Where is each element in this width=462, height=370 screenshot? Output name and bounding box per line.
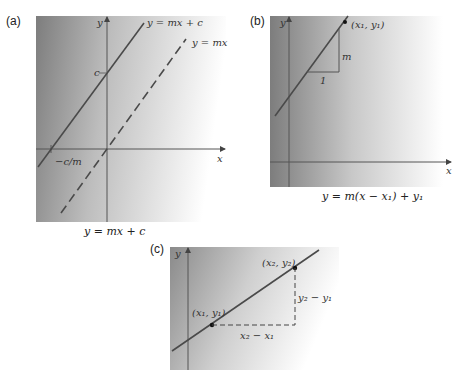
line1-label: y = mx + c [146,17,203,28]
panel-b-caption: y = m(x − x₁) + y₁ [321,190,423,203]
panel-b-y-label: y [279,17,286,28]
point-x1-y1 [343,20,347,24]
run-label-c: x₂ − x₁ [240,330,274,341]
panel-a-x-label: x [217,153,223,164]
panel-a-label: (a) [6,14,21,28]
run-label: 1 [320,75,326,86]
point2-label: (x₂, y₂) [262,257,296,268]
figure-canvas: (a) x y y = mx + c y = mx c −c/m y = mx … [0,0,462,370]
rise-label: m [342,51,351,62]
y-intercept-label: c [94,67,100,78]
panel-a-y-label: y [96,17,103,28]
panel-c-y-label: y [174,248,181,259]
panel-b-x-label: x [446,165,452,176]
panel-b-label: (b) [250,14,265,28]
panel-b-background [270,16,452,187]
line2-label: y = mx [191,37,228,48]
panel-b-point-label: (x₁, y₁) [351,19,385,30]
panel-c: (c) y (x₁, y₁) (x₂, y₂) y₂ − y₁ x₂ − x₁ [150,242,339,370]
x-intercept-label: −c/m [55,156,82,167]
rise-label-c: y₂ − y₁ [297,292,332,303]
panel-a-caption: y = mx + c [83,225,145,238]
panel-a: (a) x y y = mx + c y = mx c −c/m y = mx … [6,14,228,238]
point1-label: (x₁, y₁) [192,307,226,318]
panel-b: (b) x y (x₁, y₁) m 1 y = m(x − x₁) + y₁ [250,14,452,203]
panel-c-label: (c) [150,242,164,256]
